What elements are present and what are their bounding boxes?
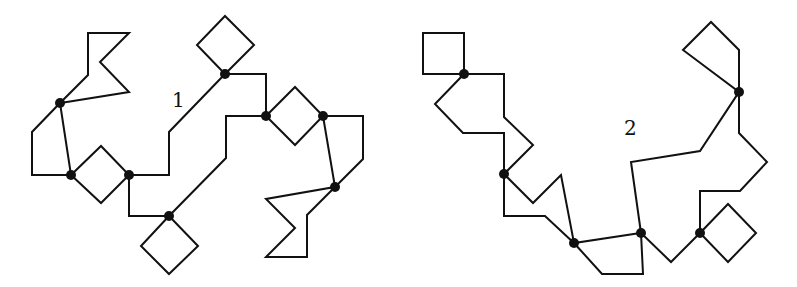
edge-path — [683, 22, 739, 92]
edge-path — [225, 74, 266, 116]
vertex-dot — [55, 98, 65, 108]
edge-path — [129, 175, 169, 216]
vertex-dot — [124, 170, 134, 180]
edge-path — [323, 116, 335, 187]
edge-path — [71, 146, 129, 203]
figure-1 — [32, 16, 363, 274]
edge-path — [700, 92, 767, 233]
edge-path — [60, 103, 71, 175]
edge-path — [574, 233, 643, 274]
edge-path — [266, 87, 323, 145]
vertex-dot — [569, 238, 579, 248]
vertex-dot — [499, 169, 509, 179]
edge-path — [574, 233, 641, 243]
diagram-canvas: 1 2 — [0, 0, 797, 287]
vertex-dot — [261, 111, 271, 121]
figure-2-label: 2 — [624, 116, 637, 140]
vertex-dot — [220, 69, 230, 79]
edge-path — [197, 16, 254, 74]
figure-1-label: 1 — [172, 88, 185, 112]
edge-path — [423, 33, 464, 74]
edge-path — [641, 233, 700, 262]
edge-path — [700, 204, 756, 262]
vertex-dot — [330, 182, 340, 192]
vertex-dot — [164, 211, 174, 221]
edge-path — [60, 33, 129, 103]
vertex-dot — [459, 69, 469, 79]
edge-path — [266, 187, 335, 257]
vertex-dot — [66, 170, 76, 180]
edge-path — [464, 74, 533, 174]
figure-2 — [423, 22, 767, 274]
vertex-dot — [734, 87, 744, 97]
edge-path — [169, 116, 266, 216]
graph-drawing — [0, 0, 797, 287]
edge-path — [631, 92, 739, 233]
vertex-dot — [318, 111, 328, 121]
edge-path — [141, 216, 198, 274]
edge-path — [435, 74, 504, 174]
vertex-dot — [636, 228, 646, 238]
vertex-dot — [695, 228, 705, 238]
